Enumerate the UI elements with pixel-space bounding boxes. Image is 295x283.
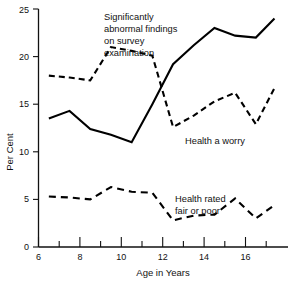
- annotation-abnormal-findings-line4: examination: [104, 48, 154, 58]
- x-tick-label-12: 12: [158, 252, 168, 262]
- x-axis-title: Age in Years: [136, 267, 190, 278]
- y-tick-label-20: 20: [19, 52, 29, 62]
- series-line-health-a-worry: [49, 47, 275, 127]
- annotation-health-rated-fair-poor-line1: Health rated: [175, 194, 226, 204]
- annotation-abnormal-findings-line2: abnormal findings: [104, 24, 178, 34]
- y-tick-label-25: 25: [19, 5, 29, 15]
- x-tick-label-16: 16: [240, 252, 250, 262]
- annotation-health-a-worry: Health a worry: [185, 136, 245, 146]
- y-axis-title: Per Cent: [4, 133, 15, 171]
- annotation-abnormal-findings-line3: on survey: [104, 36, 145, 46]
- chart-container: Per Cent 0 5 10 15 20 25 6: [0, 0, 295, 283]
- line-chart: Per Cent 0 5 10 15 20 25 6: [0, 0, 295, 283]
- y-tick-label-15: 15: [19, 99, 29, 109]
- y-tick-label-5: 5: [24, 194, 29, 204]
- x-tick-label-6: 6: [36, 252, 41, 262]
- x-tick-label-10: 10: [116, 252, 126, 262]
- y-tick-label-0: 0: [24, 242, 29, 252]
- x-tick-label-14: 14: [199, 252, 209, 262]
- x-tick-label-8: 8: [77, 252, 82, 262]
- series-line-health-rated-fair-or-poor: [49, 187, 275, 220]
- annotation-abnormal-findings-line1: Significantly: [104, 12, 154, 22]
- y-tick-label-10: 10: [19, 147, 29, 157]
- annotation-health-rated-fair-poor-line2: fair or poor: [175, 206, 220, 216]
